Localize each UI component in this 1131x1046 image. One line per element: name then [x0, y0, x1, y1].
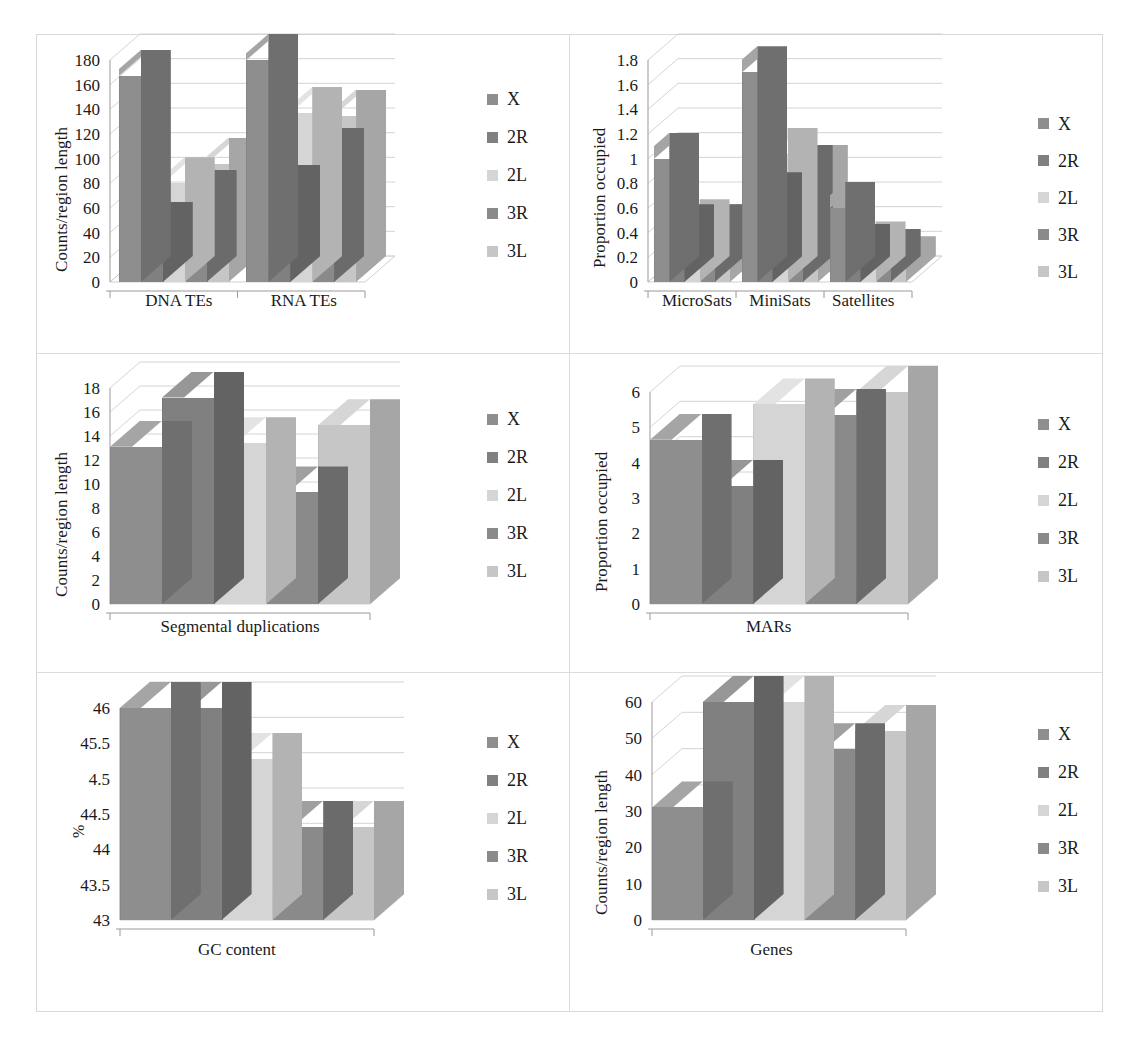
legend-swatch-3r — [1038, 533, 1049, 544]
legend-label: 2R — [507, 771, 528, 789]
legend-item-x[interactable]: X — [487, 400, 528, 438]
legend-swatch-2l — [1038, 495, 1049, 506]
bar-side-face — [162, 421, 192, 604]
chart-legend-segdup: X2R2L3R3L — [487, 400, 528, 590]
legend-item-2r[interactable]: 2R — [487, 761, 528, 799]
legend-label: 3L — [507, 242, 527, 260]
bar — [742, 72, 757, 282]
legend-item-x[interactable]: X — [1038, 405, 1079, 443]
bar — [119, 76, 141, 282]
y-tick-label: 0 — [52, 274, 100, 291]
legend-item-x[interactable]: X — [1038, 715, 1079, 753]
y-tick-label: 0 — [60, 596, 100, 613]
legend-swatch-x — [1038, 729, 1049, 740]
legend-label: 3R — [507, 847, 528, 865]
bar-front-face — [650, 440, 703, 604]
gridline — [648, 83, 942, 109]
bar-side-face — [702, 414, 732, 604]
y-axis-title: Proportion occupied — [592, 452, 612, 592]
y-tick-label: 2 — [612, 525, 640, 542]
legend-item-3l[interactable]: 3L — [487, 232, 528, 270]
y-tick-label: 44 — [52, 841, 110, 858]
y-tick-label: 43.5 — [52, 876, 110, 893]
y-tick-label: 160 — [52, 76, 100, 93]
y-tick-label: 140 — [52, 101, 100, 118]
bar-side-face — [222, 682, 252, 920]
legend-item-3l[interactable]: 3L — [487, 875, 528, 913]
legend-label: 3R — [507, 524, 528, 542]
bar-front-face — [110, 447, 163, 604]
y-tick-label: 45.5 — [52, 735, 110, 752]
x-category-label: MiniSats — [749, 291, 810, 311]
y-axis-title: % — [70, 825, 88, 838]
legend-label: 2R — [1058, 453, 1079, 471]
bar — [830, 208, 845, 282]
legend-item-3r[interactable]: 3R — [487, 194, 528, 232]
bar-side-face — [805, 378, 835, 604]
bar — [652, 807, 703, 920]
legend-swatch-2r — [487, 452, 498, 463]
bar-side-face — [214, 372, 244, 604]
legend-label: 3L — [1058, 567, 1078, 585]
legend-item-2r[interactable]: 2R — [1038, 142, 1079, 179]
legend-item-3r[interactable]: 3R — [1038, 519, 1079, 557]
y-tick-label: 5 — [612, 419, 640, 436]
bar-front-face — [120, 708, 172, 920]
legend-item-3r[interactable]: 3R — [487, 514, 528, 552]
legend-item-3r[interactable]: 3R — [1038, 216, 1079, 253]
legend-label: 2L — [507, 809, 527, 827]
chart-legend-gc: X2R2L3R3L — [487, 723, 528, 913]
y-tick-label: 18 — [60, 380, 100, 397]
legend-item-2r[interactable]: 2R — [487, 118, 528, 156]
legend-label: 2L — [1058, 801, 1078, 819]
legend-swatch-2r — [1038, 155, 1049, 166]
legend-item-2l[interactable]: 2L — [1038, 791, 1079, 829]
legend-item-3l[interactable]: 3L — [487, 552, 528, 590]
y-tick-label: 44.5 — [52, 806, 110, 823]
legend-label: 2R — [507, 128, 528, 146]
legend-item-3r[interactable]: 3R — [1038, 829, 1079, 867]
legend-swatch-2l — [487, 170, 498, 181]
legend-swatch-3r — [487, 208, 498, 219]
legend-item-3l[interactable]: 3L — [1038, 557, 1079, 595]
legend-item-2l[interactable]: 2L — [487, 476, 528, 514]
legend-label: 2R — [1058, 763, 1079, 781]
legend-item-2l[interactable]: 2L — [1038, 481, 1079, 519]
y-tick-label: 46 — [52, 700, 110, 717]
x-category-label: Genes — [750, 940, 792, 960]
legend-item-2l[interactable]: 2L — [487, 156, 528, 194]
y-tick-label: 1.4 — [594, 101, 638, 118]
bar-side-face — [856, 389, 886, 604]
legend-label: X — [507, 733, 520, 751]
legend-label: X — [1058, 115, 1071, 133]
legend-item-x[interactable]: X — [1038, 105, 1079, 142]
legend-label: 2L — [507, 486, 527, 504]
legend-label: X — [507, 410, 520, 428]
legend-item-3l[interactable]: 3L — [1038, 253, 1079, 290]
y-tick-label: 3 — [612, 490, 640, 507]
chart-legend-te: X2R2L3R3L — [487, 80, 528, 270]
bar — [120, 708, 171, 920]
legend-item-x[interactable]: X — [487, 723, 528, 761]
bar-side-face — [272, 733, 302, 920]
legend-item-2r[interactable]: 2R — [487, 438, 528, 476]
legend-label: 3R — [1058, 529, 1079, 547]
legend-item-2l[interactable]: 2L — [487, 799, 528, 837]
chart-legend-genes: X2R2L3R3L — [1038, 715, 1079, 905]
legend-item-2r[interactable]: 2R — [1038, 753, 1079, 791]
y-tick-label: 4.5 — [52, 770, 110, 787]
legend-label: 3L — [507, 562, 527, 580]
legend-item-x[interactable]: X — [487, 80, 528, 118]
legend-label: 3L — [1058, 263, 1078, 281]
x-category-label: Segmental duplications — [160, 617, 319, 637]
y-axis-title: Proportion occupied — [590, 128, 610, 268]
legend-item-3l[interactable]: 3L — [1038, 867, 1079, 905]
legend-item-2r[interactable]: 2R — [1038, 443, 1079, 481]
y-tick-label: 1.8 — [594, 52, 638, 69]
bar-side-face — [268, 34, 298, 282]
x-category-label: Satellites — [832, 291, 894, 311]
bar-side-face — [669, 133, 699, 282]
legend-item-2l[interactable]: 2L — [1038, 179, 1079, 216]
gridline — [648, 59, 942, 85]
legend-item-3r[interactable]: 3R — [487, 837, 528, 875]
